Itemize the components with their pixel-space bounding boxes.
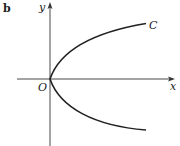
y-axis-label: y [38,1,46,14]
curve-label: C [149,19,158,32]
origin-label: O [38,81,47,94]
diagram: b y x O C [0,0,180,146]
panel-label: b [3,2,11,15]
x-axis-label: x [170,80,177,93]
curve-c [50,24,146,131]
